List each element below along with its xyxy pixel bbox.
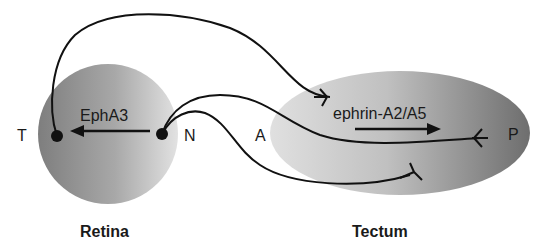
nasal-cell-dot xyxy=(156,128,168,140)
ephrin-label: ephrin-A2/A5 xyxy=(333,105,426,122)
pole-temporal-label: T xyxy=(17,127,27,144)
epha3-label: EphA3 xyxy=(80,107,128,124)
temporal-cell-dot xyxy=(51,130,63,142)
retinotectal-diagram: EphA3 ephrin-A2/A5 T N A P Retina Tectum xyxy=(0,0,536,249)
pole-nasal-label: N xyxy=(184,127,196,144)
retina-title: Retina xyxy=(80,223,129,240)
pole-anterior-label: A xyxy=(255,127,266,144)
tectum-title: Tectum xyxy=(352,223,408,240)
tectum-shape xyxy=(270,71,530,195)
pole-posterior-label: P xyxy=(508,126,519,143)
